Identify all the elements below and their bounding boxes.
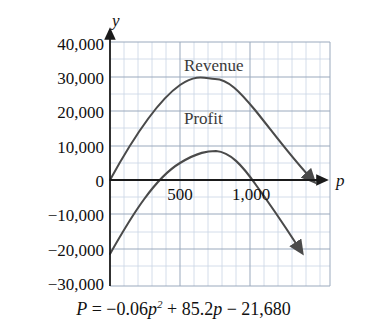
caption-equation: P = −0.06p2 + 85.2p − 21,680 [0,298,367,320]
figure-page: 40,000 30,000 20,000 10,000 0 −10,000 −2… [0,0,367,329]
curve-label-profit: Profit [184,110,223,127]
equation-op1: + [167,299,177,319]
x-axis-name: p [336,172,345,189]
equation-term1-coef: −0.06 [106,299,148,319]
equation-term2: 85.2 [182,299,214,319]
equation-term1-var: p [148,299,157,319]
equation-term3: 21,680 [241,299,291,319]
equation-equals: = [92,299,102,319]
x-tick-label: 500 [155,186,205,203]
curve-label-revenue: Revenue [184,57,243,74]
y-axis-name: y [112,12,120,29]
equation-lhs: P [76,299,87,319]
x-tick-label: 1,000 [222,186,280,203]
equation-term1-exponent: 2 [157,298,163,310]
equation-op2: − [227,299,237,319]
chart-plot-area [0,0,367,329]
equation-term2-var: p [213,299,222,319]
